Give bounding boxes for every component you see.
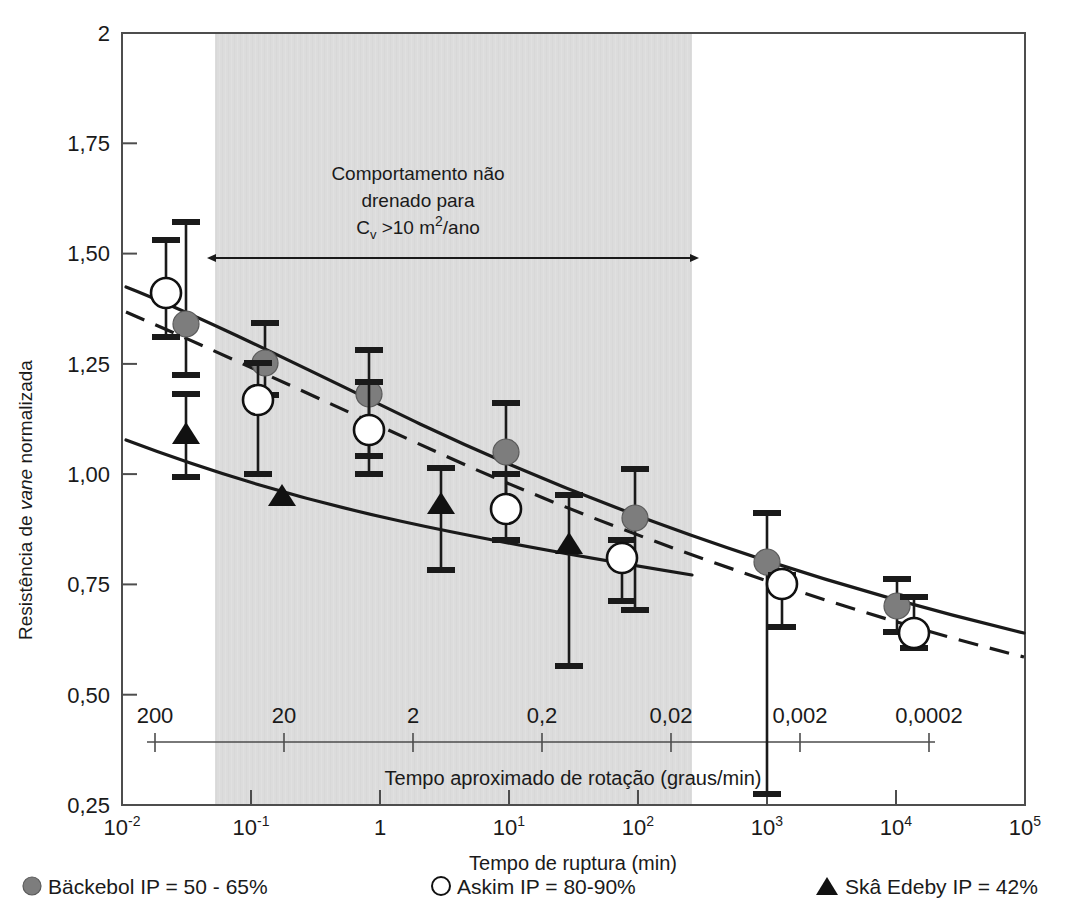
data-point-askim [899, 618, 929, 648]
y-axis-tick-labels: 2 1,75 1,50 1,25 1,00 0,75 0,50 0,25 [67, 21, 110, 818]
y-tick-label: 1,00 [67, 462, 110, 487]
annotation-line-1: Comportamento não [331, 163, 504, 184]
shaded-region [215, 33, 692, 805]
x-tick-exponent: 2 [646, 813, 654, 829]
x-tick-base: 10 [751, 815, 775, 840]
annotation-exponent: 2 [435, 213, 443, 229]
x-tick-base: 10 [493, 815, 517, 840]
annotation-cv: C [356, 217, 370, 238]
annotation-mid: >10 m [376, 217, 435, 238]
x-tick-exponent: 3 [775, 813, 783, 829]
x-tick-exponent: 5 [1033, 813, 1041, 829]
legend-label-ska-edeby: Skâ Edeby IP = 42% [845, 875, 1038, 898]
x-tick-exponent: -2 [128, 813, 141, 829]
y-tick-label: 0,75 [67, 572, 110, 597]
chart-legend: Bäckebol IP = 50 - 65% Askim IP = 80-90%… [23, 875, 1038, 898]
x-tick-label: 1 [374, 815, 386, 840]
x-tick-exponent: -1 [257, 813, 270, 829]
legend-marker-filled-triangle [816, 877, 838, 895]
y-tick-label: 2 [98, 21, 110, 46]
chart-figure: 2 1,75 1,50 1,25 1,00 0,75 0,50 0,25 Res… [0, 0, 1067, 921]
x-tick-exponent: 1 [517, 813, 525, 829]
secondary-tick-label: 0,002 [772, 703, 827, 728]
y-axis-title: Resistência de vane normalizada [15, 360, 36, 640]
data-point-askim [354, 415, 384, 445]
data-point-backebol [622, 505, 648, 531]
secondary-tick-label: 0,02 [650, 703, 693, 728]
data-point-askim [151, 278, 181, 308]
secondary-tick-label: 2 [407, 703, 419, 728]
data-point-askim [767, 569, 797, 599]
legend-marker-filled-circle [23, 877, 41, 895]
y-tick-label: 1,75 [67, 131, 110, 156]
y-axis-title-italic: vane [15, 469, 36, 510]
x-tick-base: 10 [622, 815, 646, 840]
y-axis-title-post: normalizada [15, 360, 36, 469]
y-axis-title-pre: Resistência de [15, 510, 36, 640]
data-point-askim [243, 385, 273, 415]
secondary-tick-label: 20 [272, 703, 296, 728]
data-point-askim [491, 494, 521, 524]
x-axis-tick-labels: 10-2 10-1 1 101 102 103 104 105 [104, 813, 1042, 840]
y-tick-label: 1,50 [67, 241, 110, 266]
x-tick-label: 104 [880, 813, 912, 840]
x-tick-label: 10-2 [104, 813, 141, 840]
legend-label-askim: Askim IP = 80-90% [457, 875, 636, 898]
x-tick-base: 10 [233, 815, 257, 840]
y-tick-label: 0,50 [67, 683, 110, 708]
x-tick-base: 10 [880, 815, 904, 840]
y-axis-ticks [122, 143, 137, 694]
x-tick-label: 105 [1009, 813, 1041, 840]
secondary-axis-title: Tempo aproximado de rotação (graus/min) [385, 767, 762, 789]
data-point-backebol [493, 439, 519, 465]
data-point-backebol [173, 311, 199, 337]
x-tick-label: 102 [622, 813, 654, 840]
secondary-tick-label: 0,0002 [895, 703, 962, 728]
legend-label-backebol: Bäckebol IP = 50 - 65% [48, 875, 268, 898]
legend-marker-open-circle [432, 877, 450, 895]
x-tick-label: 101 [493, 813, 525, 840]
x-tick-base: 10 [1009, 815, 1033, 840]
secondary-tick-label: 0,2 [527, 703, 558, 728]
data-point-ska-edeby [172, 422, 200, 444]
annotation-post: /ano [443, 217, 480, 238]
annotation-line-2: drenado para [361, 190, 474, 211]
secondary-tick-label: 200 [137, 703, 174, 728]
y-tick-label: 1,25 [67, 352, 110, 377]
x-tick-exponent: 4 [904, 813, 912, 829]
x-tick-label: 10-1 [233, 813, 270, 840]
data-point-askim [607, 543, 637, 573]
x-tick-base: 10 [104, 815, 128, 840]
x-tick-label: 103 [751, 813, 783, 840]
chart-svg: 2 1,75 1,50 1,25 1,00 0,75 0,50 0,25 Res… [0, 0, 1067, 921]
x-tick-base: 1 [374, 815, 386, 840]
x-axis-title: Tempo de ruptura (min) [469, 852, 677, 874]
